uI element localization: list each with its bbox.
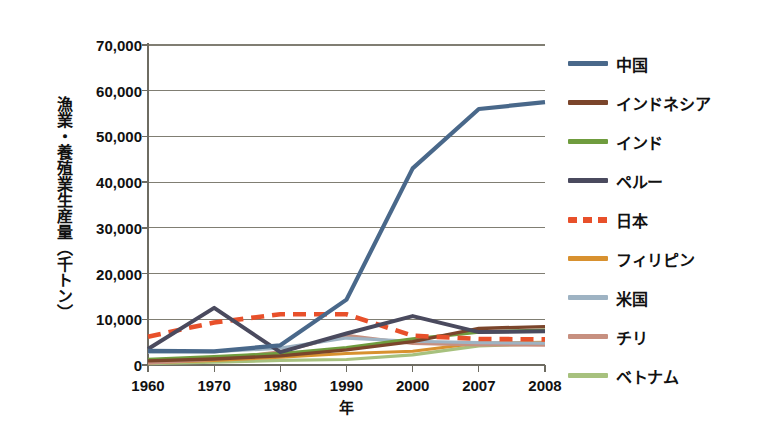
legend-item-label: ベトナム xyxy=(616,364,679,388)
legend-color-swatch xyxy=(568,178,608,183)
legend-item-label: フィリピン xyxy=(616,247,695,271)
legend-item[interactable]: チリ xyxy=(568,317,768,356)
x-tick-label: 1970 xyxy=(197,377,230,394)
x-tick-label: 1990 xyxy=(330,377,363,394)
legend-item-label: インド xyxy=(616,130,663,154)
legend-item-label: チリ xyxy=(616,325,647,349)
fisheries-production-line-chart: 漁業・養殖業生産量（千トン） 010,00020,00030,00040,000… xyxy=(0,0,770,440)
legend-item[interactable]: 米国 xyxy=(568,278,768,317)
legend-color-swatch xyxy=(568,61,608,66)
x-tick-label: 2007 xyxy=(462,377,495,394)
legend-color-swatch xyxy=(568,100,608,105)
legend-item-label: インドネシア xyxy=(616,91,710,115)
legend-item[interactable]: ベトナム xyxy=(568,356,768,395)
legend-color-swatch xyxy=(568,334,608,339)
legend-item[interactable]: 日本 xyxy=(568,200,768,239)
legend-color-swatch xyxy=(568,373,608,378)
legend-color-swatch xyxy=(568,256,608,261)
chart-legend: 中国インドネシアインドペルー日本フィリピン米国チリベトナム xyxy=(568,44,768,395)
legend-color-swatch xyxy=(568,295,608,300)
legend-item[interactable]: 中国 xyxy=(568,44,768,83)
x-tick-label: 1980 xyxy=(264,377,297,394)
legend-item[interactable]: インド xyxy=(568,122,768,161)
legend-item-label: ペルー xyxy=(616,169,663,193)
legend-color-swatch xyxy=(568,139,608,144)
legend-item-label: 日本 xyxy=(616,208,647,232)
x-tick-label: 2008 xyxy=(528,377,561,394)
legend-item[interactable]: インドネシア xyxy=(568,83,768,122)
legend-item[interactable]: フィリピン xyxy=(568,239,768,278)
legend-item-label: 米国 xyxy=(616,286,647,310)
legend-item-label: 中国 xyxy=(616,52,647,76)
x-axis-title: 年 xyxy=(339,396,354,417)
x-tick-label: 2000 xyxy=(396,377,429,394)
x-tick-label: 1960 xyxy=(131,377,164,394)
legend-item[interactable]: ペルー xyxy=(568,161,768,200)
legend-color-swatch xyxy=(568,217,608,223)
